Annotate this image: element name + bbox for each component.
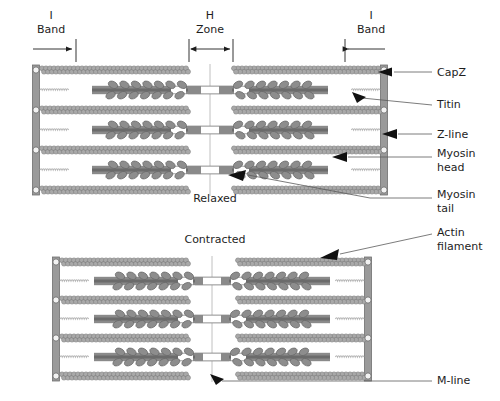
z-line-right (365, 257, 372, 381)
sarcomere-diagram: I Band H Zone I Band Relaxed (0, 0, 500, 401)
actin-filament (40, 106, 191, 114)
capz-cap (33, 67, 39, 73)
i-band-right-line2: Band (357, 23, 385, 36)
m-line-label: M-line (437, 374, 471, 387)
z-line-label: Z-line (437, 128, 468, 141)
actin-filament (60, 372, 191, 380)
diagram-canvas: I Band H Zone I Band Relaxed (0, 0, 500, 401)
actin-filament (236, 372, 367, 380)
i-band-left-line1: I (49, 9, 52, 22)
h-zone-line1: H (206, 9, 214, 22)
actin-filament (40, 186, 191, 194)
capz-cap (33, 147, 39, 153)
actin-filament (236, 334, 367, 342)
myosin-head-label-1: Myosin (437, 147, 476, 160)
titin-label: Titin (436, 98, 461, 111)
label-contracted: Contracted (184, 233, 245, 246)
actin-filament (232, 186, 383, 194)
actin-filament (232, 66, 383, 74)
actin-filament-label-1: Actin (437, 226, 465, 239)
actin-filament (236, 258, 367, 266)
capz-label: CapZ (437, 66, 466, 79)
z-line-left (33, 65, 40, 195)
capz-cap (365, 297, 371, 303)
capz-cap (33, 187, 39, 193)
capz-cap (381, 187, 387, 193)
capz-cap (53, 297, 59, 303)
capz-cap (381, 107, 387, 113)
label-relaxed: Relaxed (193, 192, 237, 205)
capz-cap (53, 335, 59, 341)
actin-filament (232, 146, 383, 154)
i-band-left-line2: Band (37, 23, 65, 36)
actin-filament (40, 66, 191, 74)
actin-filament (40, 146, 191, 154)
capz-cap (365, 335, 371, 341)
myosin-head-label-2: head (437, 161, 464, 174)
capz-cap (365, 259, 371, 265)
z-line-right (381, 65, 388, 195)
h-zone-line2: Zone (196, 23, 224, 36)
actin-filament (60, 334, 191, 342)
i-band-right-line1: I (369, 9, 372, 22)
actin-filament (232, 106, 383, 114)
capz-cap (365, 373, 371, 379)
actin-filament (60, 296, 191, 304)
actin-filament (60, 258, 191, 266)
actin-filament (236, 296, 367, 304)
myosin-tail-label-1: Myosin (437, 188, 476, 201)
capz-cap (381, 147, 387, 153)
actin-filament-label-2: filament (437, 240, 483, 253)
capz-cap (33, 107, 39, 113)
capz-cap (53, 259, 59, 265)
capz-cap (53, 373, 59, 379)
myosin-tail-label-2: tail (437, 202, 454, 215)
z-line-left (53, 257, 60, 381)
